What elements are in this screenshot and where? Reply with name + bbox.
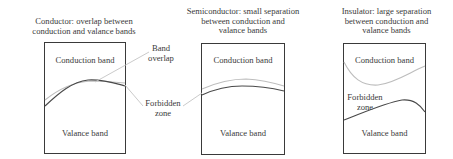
insulator-conduction-band-edge: [344, 62, 425, 85]
insulator-valence-band-edge: [344, 100, 425, 120]
forbidden-zone-leader-right: [183, 93, 202, 106]
forbidden-zone-leader-left: [125, 85, 143, 106]
band-overlap-leader-line: [95, 52, 149, 82]
conductor-valence-band-edge: [45, 80, 125, 106]
conductor-conduction-band-edge: [45, 81, 125, 100]
semiconductor-conduction-band-edge: [202, 79, 284, 89]
semiconductor-valence-band-edge: [202, 86, 284, 95]
band-edge-curves: [0, 0, 453, 159]
